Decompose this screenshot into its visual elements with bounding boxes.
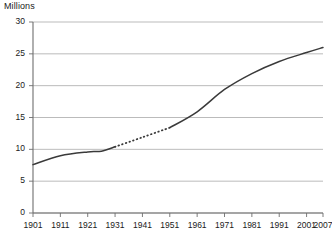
x-tick-label: 1981 [242, 221, 261, 230]
x-tick-label: 1911 [51, 221, 69, 230]
x-tick-label: 1971 [215, 221, 234, 230]
gridlines [33, 22, 323, 213]
x-tick-label: 1921 [78, 221, 97, 230]
series-line-1 [115, 128, 170, 147]
y-tick-label: 25 [3, 49, 25, 58]
x-tick-label: 1991 [270, 221, 289, 230]
x-tick-label: 1931 [106, 221, 125, 230]
x-tick-label: 2007 [314, 221, 332, 230]
x-tick-label: 1951 [160, 221, 179, 230]
data-series-group [33, 47, 323, 164]
y-tick-label: 5 [3, 176, 25, 185]
x-tick-label: 1941 [133, 221, 152, 230]
x-tick-label: 1901 [24, 221, 43, 230]
y-tick-label: 30 [3, 17, 25, 26]
x-tick-marks [33, 213, 323, 217]
x-tick-label: 1961 [188, 221, 207, 230]
y-tick-marks [29, 22, 33, 213]
series-line-2 [170, 47, 323, 127]
y-tick-label: 10 [3, 144, 25, 153]
y-tick-label: 20 [3, 81, 25, 90]
y-tick-label: 0 [3, 208, 25, 217]
y-tick-label: 15 [3, 113, 25, 122]
